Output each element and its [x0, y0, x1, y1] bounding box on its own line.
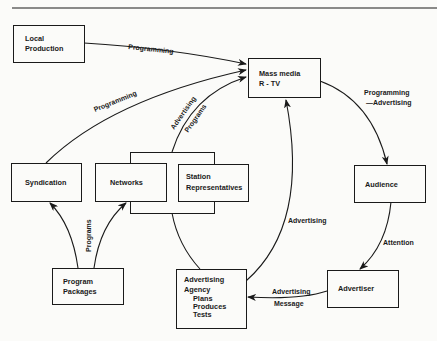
- node-advertising-agency: Advertising Agency Plans Produces Tests: [176, 269, 247, 329]
- label-advertising-message-1: Advertising: [272, 288, 311, 296]
- node-mass-media-line1: Mass media: [259, 69, 300, 79]
- node-networks-label: Networks: [110, 178, 143, 188]
- edge-audience-to-advertiser: [360, 202, 391, 269]
- label-syndication-programming: Programming: [93, 89, 138, 113]
- node-syndication: Syndication: [11, 163, 82, 202]
- label-media-advertising: —Advertising: [366, 99, 412, 107]
- node-networks: Networks: [95, 163, 167, 202]
- label-packages-programs: Programs: [85, 219, 93, 252]
- node-program-packages: Program Packages: [52, 268, 124, 305]
- node-mass-media: Mass media R - TV: [248, 58, 321, 98]
- edge-packages-to-syndication: [50, 203, 78, 268]
- node-station-line1: Station: [186, 172, 211, 182]
- node-mass-media-line2: R - TV: [259, 79, 280, 89]
- label-local-programming: Programming: [128, 43, 174, 56]
- edge-group-to-agency: [172, 213, 200, 269]
- label-agency-advertising: Advertising: [288, 217, 327, 225]
- node-station-line2: Representatives: [186, 183, 242, 193]
- node-audience-label: Audience: [365, 180, 398, 190]
- node-program-packages-line2: Packages: [63, 287, 97, 297]
- node-agency-line5: Tests: [193, 311, 212, 319]
- node-audience: Audience: [354, 165, 426, 203]
- node-advertiser: Advertiser: [327, 270, 399, 308]
- node-agency-line1: Advertising: [184, 275, 224, 285]
- node-local-production-line2: Production: [25, 44, 64, 54]
- node-station-representatives: Station Representatives: [178, 164, 249, 202]
- node-local-production-line1: Local: [25, 34, 44, 44]
- node-local-production: Local Production: [13, 25, 85, 63]
- edge-syndication-to-media: [46, 70, 246, 163]
- label-advertising-message-2: Message: [274, 300, 304, 308]
- label-media-programming: Programming: [364, 89, 410, 97]
- node-advertiser-label: Advertiser: [338, 284, 374, 294]
- edge-agency-to-media: [246, 100, 293, 281]
- node-program-packages-line1: Program: [63, 277, 93, 287]
- node-syndication-label: Syndication: [25, 178, 66, 188]
- edge-packages-to-networks: [94, 203, 126, 268]
- label-attention: Attention: [383, 239, 414, 246]
